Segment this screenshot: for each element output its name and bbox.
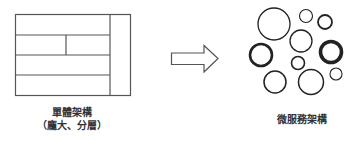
- right-arrow-icon: [172, 46, 219, 73]
- microservice-circle: [321, 42, 342, 63]
- microservice-circle: [330, 68, 342, 80]
- monolith-subtitle: （龐大、分層）: [32, 120, 112, 132]
- microservice-circle: [299, 70, 324, 95]
- microservices-cluster: [250, 8, 342, 95]
- microservice-circle: [250, 44, 272, 66]
- microservice-circle: [264, 71, 286, 93]
- microservice-circle: [318, 15, 332, 29]
- microservice-circle: [300, 10, 313, 23]
- microservice-circle: [258, 8, 290, 40]
- monolith-title: 單體架構: [42, 107, 102, 119]
- microservice-circle: [292, 57, 305, 70]
- microservice-circle: [290, 30, 312, 52]
- monolith-block: [16, 15, 131, 96]
- microservices-title: 微服務架構: [266, 114, 338, 126]
